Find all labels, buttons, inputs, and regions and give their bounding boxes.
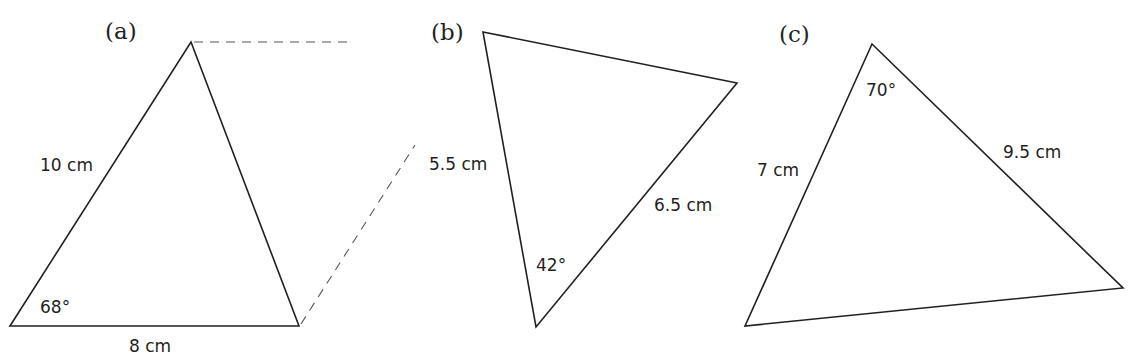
figure-c-label: (c)	[779, 21, 810, 47]
figure-b: (b) 5.5 cm 6.5 cm 42°	[429, 19, 737, 327]
side-label-8cm: 8 cm	[129, 336, 171, 356]
side-label-7cm: 7 cm	[757, 160, 799, 180]
triangle-c	[745, 44, 1123, 326]
triangle-b	[483, 32, 737, 327]
side-label-9-5cm: 9.5 cm	[1003, 142, 1061, 162]
triangles-diagram: (a) 10 cm 8 cm 68° (b) 5.5 cm 6.5 cm 42°…	[0, 0, 1140, 357]
figure-c: (c) 7 cm 9.5 cm 70°	[745, 21, 1123, 326]
figure-a-label: (a)	[105, 18, 137, 44]
triangle-a	[10, 42, 299, 326]
figure-a: (a) 10 cm 8 cm 68°	[10, 18, 415, 356]
dashed-line-diagonal	[301, 145, 415, 324]
figure-b-label: (b)	[431, 19, 464, 45]
angle-label-42: 42°	[536, 255, 566, 275]
side-label-6-5cm: 6.5 cm	[654, 195, 712, 215]
angle-label-68: 68°	[40, 297, 70, 317]
angle-label-70: 70°	[866, 80, 896, 100]
side-label-10cm: 10 cm	[40, 155, 93, 175]
side-label-5-5cm: 5.5 cm	[429, 154, 487, 174]
